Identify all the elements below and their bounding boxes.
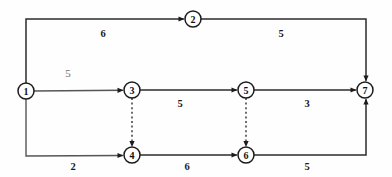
edge-3-to-5: 5	[140, 87, 238, 108]
node-7-circle[interactable]	[357, 82, 373, 98]
node-5[interactable]: 5	[238, 82, 254, 98]
edge-1-to-3-arrowhead	[118, 88, 124, 93]
edge-2-to-7-arrowhead	[363, 76, 368, 82]
edge-5-to-7-arrowhead	[351, 87, 357, 92]
edge-weight-6-7: 5	[304, 161, 309, 172]
node-5-circle[interactable]	[238, 82, 254, 98]
edge-1-to-2: 6	[26, 16, 185, 91]
node-7[interactable]: 7	[357, 82, 373, 98]
node-6[interactable]: 6	[238, 147, 254, 163]
edge-2-to-7: 5	[201, 19, 369, 82]
edge-1-to-3-line	[34, 90, 122, 91]
edge-weight-1-4: 2	[70, 161, 75, 172]
edge-6-to-7-line	[254, 100, 366, 155]
edge-weight-1-3: 5	[65, 67, 71, 79]
edge-6-to-7-arrowhead	[363, 99, 368, 105]
dummy-edge-3-to-4-arrowhead	[129, 141, 134, 147]
edge-1-to-3: 5	[34, 67, 124, 93]
node-4-circle[interactable]	[124, 147, 140, 163]
edge-6-to-7: 5	[254, 99, 369, 172]
edge-weight-3-5: 5	[177, 98, 182, 109]
node-2-circle[interactable]	[185, 11, 201, 27]
network-diagram-svg: 6 5 5 5 3 2	[0, 0, 392, 177]
edge-1-to-4: 2	[26, 99, 124, 172]
edge-weight-5-7: 3	[304, 98, 309, 109]
edge-weight-4-6: 6	[184, 161, 189, 172]
node-3-circle[interactable]	[124, 82, 140, 98]
node-1[interactable]: 1	[18, 83, 34, 99]
node-3[interactable]: 3	[124, 82, 140, 98]
edge-weight-1-2: 6	[100, 28, 105, 39]
node-6-circle[interactable]	[238, 147, 254, 163]
edge-1-to-4-arrowhead	[118, 153, 124, 158]
node-1-circle[interactable]	[18, 83, 34, 99]
edge-5-to-7: 3	[254, 87, 357, 108]
dummy-edge-3-to-4	[129, 98, 134, 147]
edge-weight-2-7: 5	[278, 28, 283, 39]
edge-3-to-5-arrowhead	[232, 87, 238, 92]
node-4[interactable]: 4	[124, 147, 140, 163]
edge-4-to-6-arrowhead	[232, 152, 238, 157]
node-2[interactable]: 2	[185, 11, 201, 27]
network-diagram-canvas: 6 5 5 5 3 2	[0, 0, 392, 177]
edge-4-to-6: 6	[140, 152, 238, 171]
edge-1-to-2-arrowhead	[179, 16, 185, 21]
dummy-edge-5-to-6-arrowhead	[243, 141, 248, 147]
dummy-edge-5-to-6	[243, 98, 248, 147]
edge-1-to-4-line	[26, 99, 122, 156]
